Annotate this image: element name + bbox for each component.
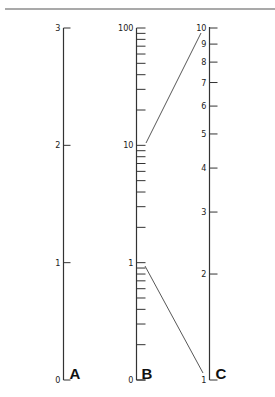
nomogram-canvas: 0123A 0110100B 12345678910C [0,0,275,397]
axis-b-tick-label: 100 [118,23,133,33]
axis-c-tick-label: 2 [201,269,206,279]
axis-c-tick-label: 5 [201,129,206,139]
axis-a-tick-label: 0 [55,375,60,385]
axis-a-tick-label: 3 [55,23,60,33]
axis-c: 12345678910C [196,23,226,385]
connector-lines [145,33,203,373]
axis-c-tick-label: 10 [196,23,206,33]
axis-c-tick-label: 7 [201,78,206,88]
axis-c-tick-label: 8 [201,57,206,67]
axis-a-tick-label: 1 [55,258,60,268]
axis-c-tick-label: 4 [201,163,206,173]
axis-c-label: C [216,365,227,382]
axis-c-tick-label: 3 [201,207,206,217]
axis-b-label: B [142,365,153,382]
axis-a-label: A [70,365,81,382]
axis-a: 0123A [55,23,80,385]
axis-b: 0110100B [118,23,152,385]
axis-c-tick-label: 6 [201,101,206,111]
axis-b-tick-label: 1 [128,258,133,268]
axis-b-tick-label: 10 [123,140,133,150]
axis-c-tick-label: 1 [201,375,206,385]
axis-a-tick-label: 2 [55,140,60,150]
connector-b10-c10 [146,33,201,143]
connector-b1-c1 [145,266,203,373]
axis-c-tick-label: 9 [201,39,206,49]
axis-b-tick-label: 0 [128,375,133,385]
